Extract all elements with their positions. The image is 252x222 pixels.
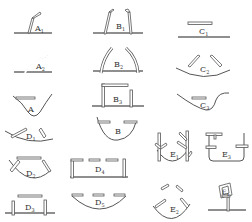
panel-d3: D3 <box>5 195 55 215</box>
panel-e2: E2 <box>153 184 190 219</box>
label-d1: D1 <box>26 132 36 142</box>
panel-b: B <box>97 117 137 140</box>
label-d5: D5 <box>95 198 105 208</box>
label-a: A <box>27 105 34 114</box>
panel-c2: C2 <box>176 55 230 77</box>
panel-d2: D2 <box>9 157 51 179</box>
panel-e3: E3 <box>206 133 248 161</box>
panel-d5: D5 <box>72 194 126 209</box>
label-c3: C3 <box>200 101 209 111</box>
panel-d4: D4 <box>70 159 128 178</box>
panel-c3: C3 <box>177 93 229 111</box>
panel-b1: B1 <box>93 9 143 34</box>
panel-e1: E1 <box>155 131 192 161</box>
label-b2: B2 <box>114 60 123 70</box>
panel-d1: D1 <box>5 128 53 142</box>
label-d2: D2 <box>26 169 36 179</box>
panel-c1: C1 <box>178 22 230 37</box>
label-a1: A1 <box>34 24 44 34</box>
label-a2: A2 <box>35 62 45 72</box>
label-d4: D4 <box>95 165 105 175</box>
label-c2: C2 <box>200 65 209 75</box>
panel-b3: B3 <box>92 84 144 107</box>
panel-b2: B2 <box>93 48 143 73</box>
panel-a1: A1 <box>14 12 52 34</box>
label-b: B <box>115 127 121 136</box>
label-e1: E1 <box>170 150 179 160</box>
label-e2: E2 <box>170 205 179 215</box>
panel-a2: A2 <box>14 56 52 73</box>
label-e3: E3 <box>222 150 231 160</box>
panel-a: A <box>13 94 52 116</box>
label-d3: D3 <box>25 203 35 213</box>
label-c1: C1 <box>199 27 208 37</box>
panel-e4: E4 <box>208 183 246 211</box>
label-b1: B1 <box>116 22 125 32</box>
label-b3: B3 <box>113 95 122 105</box>
diagram-canvas: A1 A2 A B1 B2 B3 <box>0 0 252 222</box>
